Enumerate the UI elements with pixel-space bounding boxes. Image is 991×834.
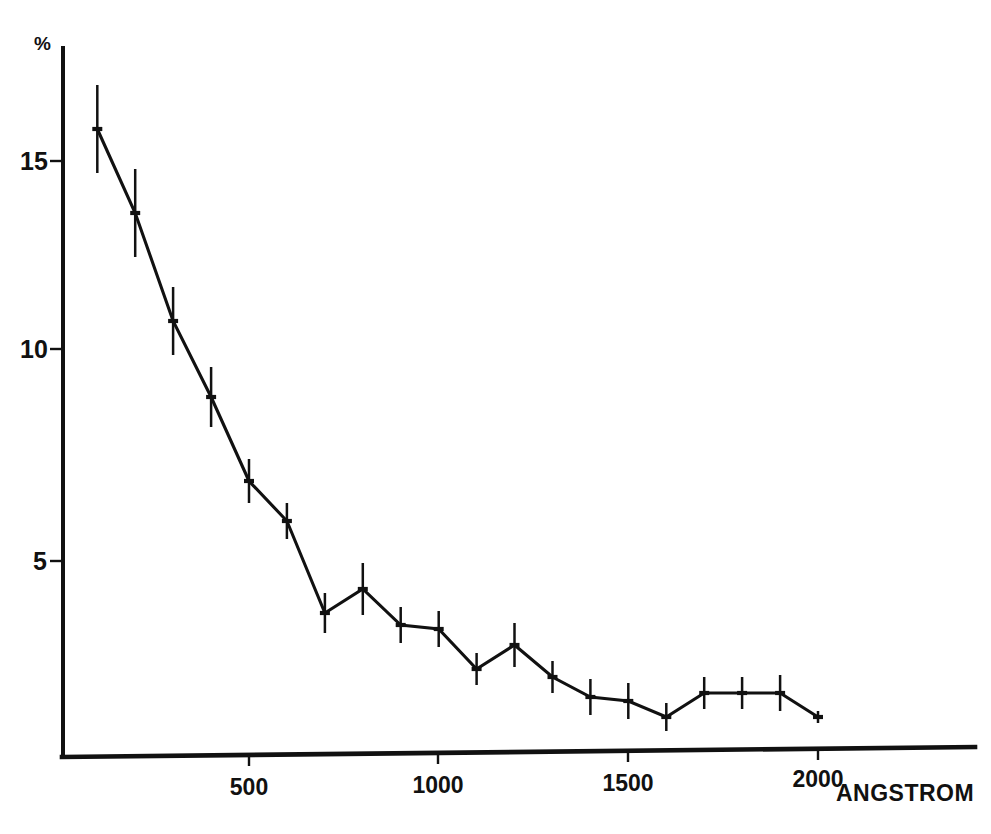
chart-figure: % 15 10 5 500 1000 1500 2000 ANGSTROM [0, 0, 991, 834]
x-tick-label-500: 500 [230, 774, 268, 800]
axis-group [62, 48, 975, 757]
x-tick-label-group: 500 1000 1500 2000 [230, 766, 844, 800]
data-series-layer [92, 85, 823, 731]
y-tick-label-15: 15 [20, 147, 48, 175]
x-axis-line [62, 747, 975, 757]
x-axis-title: ANGSTROM [836, 780, 974, 806]
series-line [97, 129, 818, 717]
y-axis-unit-label: % [34, 33, 51, 54]
x-tick-label-1500: 1500 [602, 770, 653, 796]
x-tick-label-1000: 1000 [412, 772, 463, 798]
y-tick-label-10: 10 [20, 335, 48, 363]
y-tick-label-group: 15 10 5 [20, 147, 48, 575]
y-tick-label-5: 5 [33, 547, 47, 575]
chart-svg: % 15 10 5 500 1000 1500 2000 ANGSTROM [0, 0, 991, 834]
